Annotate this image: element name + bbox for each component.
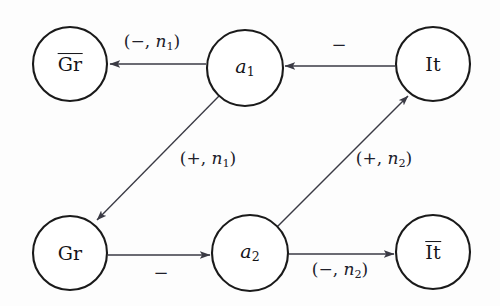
node-label-gr: Gr <box>58 244 83 263</box>
node-label-it-bar: It <box>425 241 441 263</box>
edge-label-a1-to-grbar: −(−, n1) <box>124 33 180 52</box>
edge-label-a2-to-it: (+, n2) <box>356 150 412 169</box>
node-label-it: It <box>425 55 441 74</box>
node-label-a2: a2 <box>240 242 260 264</box>
diagram-canvas: Gr a1 It Gr a2 It −(−, n1) − (+, n1) − (… <box>0 0 500 306</box>
node-label-a1: a1 <box>235 57 255 79</box>
edge-label-gr-to-a2: − <box>153 264 168 282</box>
node-label-gr-bar: Gr <box>58 53 83 75</box>
edge-label-a1-to-gr: (+, n1) <box>180 150 236 169</box>
edge-label-a2-to-itbar: (−, n2) <box>312 261 368 280</box>
edge-label-it-to-a1: − <box>331 36 346 54</box>
